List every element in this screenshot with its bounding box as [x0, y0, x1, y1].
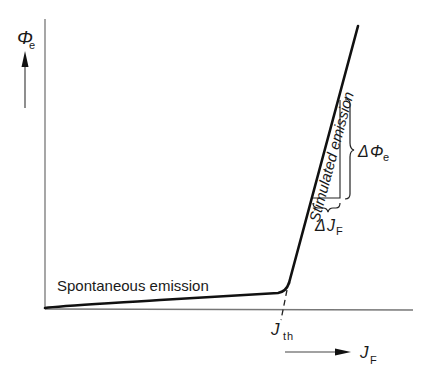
svg-text:e: e	[29, 39, 35, 51]
x-axis-label: J F	[359, 343, 377, 366]
svg-text:J: J	[359, 343, 369, 362]
threshold-label: J th	[270, 320, 294, 342]
svg-text:J: J	[326, 217, 336, 234]
svg-text:Φ: Φ	[370, 143, 383, 160]
delta-phi-label: Δ Φ e	[357, 143, 389, 163]
y-arrow-icon	[22, 51, 29, 108]
svg-text:F: F	[370, 354, 377, 366]
svg-text:Δ: Δ	[314, 217, 326, 234]
svg-text:F: F	[336, 225, 343, 237]
diagram-canvas: Φ e Spontaneous emission Stimulated emis…	[0, 0, 430, 375]
svg-text:J: J	[270, 320, 280, 339]
delta-j-label: Δ J F	[314, 217, 343, 237]
x-arrow-icon	[285, 349, 351, 356]
svg-text:th: th	[283, 330, 294, 342]
spontaneous-label: Spontaneous emission	[57, 277, 209, 294]
svg-text:e: e	[383, 151, 389, 163]
threshold-dash	[281, 290, 287, 320]
y-axis-label: Φ e	[17, 27, 35, 51]
svg-text:Δ: Δ	[357, 143, 369, 160]
x-axis	[45, 309, 413, 310]
